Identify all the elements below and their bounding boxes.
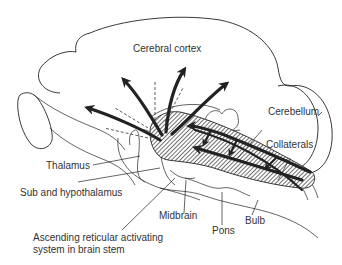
label-pons: Pons [212, 225, 235, 236]
label-thalamus: Thalamus [46, 160, 90, 171]
leader-midbrain [184, 180, 186, 213]
leader-sub-hypothalamus [78, 168, 160, 182]
label-bulb: Bulb [245, 215, 265, 226]
label-collaterals: Collaterals [266, 139, 313, 150]
label-cerebellum: Cerebellum [268, 106, 319, 117]
brain-diagram: Cerebral cortex Cerebellum Collaterals T… [0, 0, 342, 265]
frontal-base-line [34, 95, 125, 150]
label-aras-line1: Ascending reticular activating [33, 232, 163, 243]
label-aras-line2: system in brain stem [33, 244, 125, 255]
leader-thalamus [93, 156, 140, 165]
label-cerebral-cortex: Cerebral cortex [133, 43, 201, 54]
label-midbrain: Midbrain [159, 210, 197, 221]
midbrain-outline [170, 170, 195, 179]
leader-aras [122, 178, 175, 230]
thalamus-inner [129, 130, 145, 182]
leader-bulb [252, 200, 258, 215]
cerebrum-base [50, 128, 135, 185]
label-sub-hypothalamus: Sub and hypothalamus [20, 187, 122, 198]
olfactory-bulb-outline [18, 93, 52, 149]
arrow-cortex-2 [124, 80, 162, 135]
